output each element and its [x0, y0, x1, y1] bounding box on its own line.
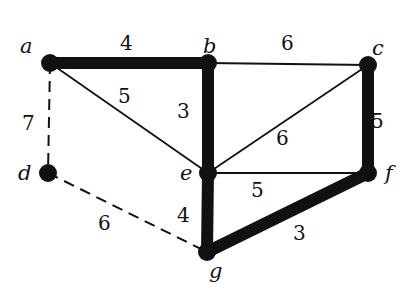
- edge-weight-a-e: 5: [118, 84, 131, 108]
- edge-weight-d-g: 6: [98, 211, 111, 235]
- node-label-a: a: [20, 34, 33, 58]
- edge-weight-a-d: 7: [22, 111, 35, 135]
- edge-a-d: [48, 63, 50, 173]
- node-label-g: g: [209, 259, 222, 283]
- edge-weight-c-f: 5: [371, 109, 384, 133]
- edge-weight-e-f: 5: [251, 178, 264, 202]
- node-f: [359, 164, 377, 182]
- edges-layer: [48, 63, 368, 252]
- node-label-f: f: [383, 161, 396, 185]
- edge-e-g: [207, 173, 208, 252]
- edge-weight-e-g: 4: [177, 203, 190, 227]
- edge-weight-g-f: 3: [293, 221, 306, 245]
- node-a: [41, 54, 59, 72]
- node-label-b: b: [203, 34, 216, 58]
- edge-c-e: [208, 65, 368, 173]
- edge-weight-b-e: 3: [177, 99, 190, 123]
- node-e: [199, 164, 217, 182]
- node-d: [39, 164, 57, 182]
- node-label-e: e: [180, 161, 192, 185]
- edge-g-f: [207, 173, 368, 252]
- edge-weight-a-b: 4: [120, 31, 133, 55]
- edge-weight-b-c: 6: [281, 31, 294, 55]
- node-label-d: d: [18, 161, 31, 185]
- graph-diagram: 46536557643abcdefg: [0, 0, 415, 293]
- edge-b-c: [208, 63, 368, 65]
- edge-weight-c-e: 6: [276, 126, 289, 150]
- node-label-c: c: [372, 36, 384, 60]
